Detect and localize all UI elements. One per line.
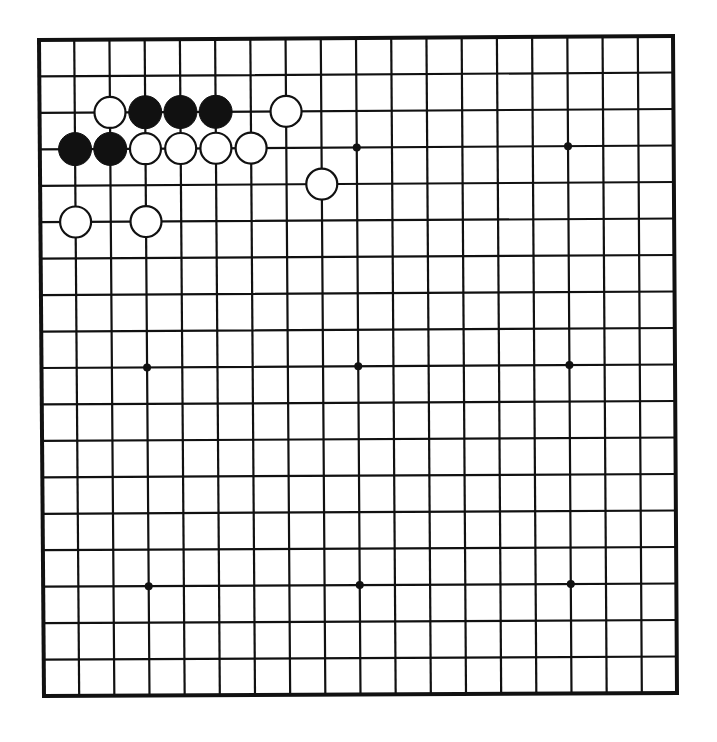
star-point xyxy=(567,580,575,588)
star-point xyxy=(564,142,572,150)
star-point xyxy=(354,362,362,370)
white-stone xyxy=(271,96,302,127)
black-stone xyxy=(94,132,127,165)
white-stone xyxy=(306,169,337,200)
white-stone xyxy=(236,133,267,164)
star-point xyxy=(143,363,151,371)
black-stone xyxy=(59,133,92,166)
grid-line-vertical xyxy=(673,36,677,693)
star-point xyxy=(356,581,364,589)
star-point xyxy=(565,361,573,369)
white-stone xyxy=(200,133,231,164)
white-stone xyxy=(165,133,196,164)
white-stone xyxy=(130,133,161,164)
black-stone xyxy=(164,96,197,129)
go-board xyxy=(0,0,717,742)
black-stone xyxy=(129,96,162,129)
star-point xyxy=(353,143,361,151)
go-board-diagram xyxy=(0,0,717,742)
grid-line-horizontal xyxy=(44,693,677,696)
white-stone xyxy=(60,207,91,238)
grid-line-horizontal xyxy=(43,620,676,623)
white-stone xyxy=(131,206,162,237)
white-stone xyxy=(94,97,125,128)
black-stone xyxy=(199,95,232,128)
grid-line-horizontal xyxy=(44,657,677,660)
star-point xyxy=(145,582,153,590)
stones-layer xyxy=(59,95,338,237)
